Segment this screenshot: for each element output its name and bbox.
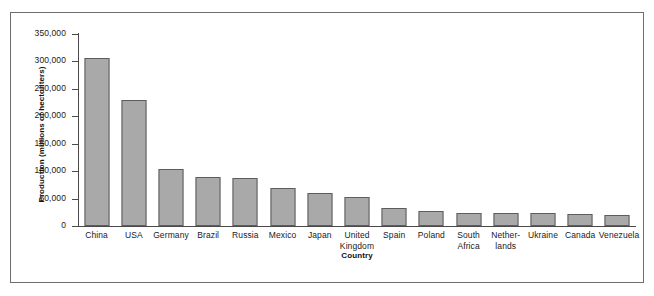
bar[interactable]	[307, 193, 332, 226]
x-axis-tick-label: SouthAfrica	[450, 230, 487, 251]
bar[interactable]	[84, 58, 109, 226]
bar[interactable]	[270, 188, 295, 226]
bar-slot	[599, 34, 636, 226]
x-axis-tick-label: Japan	[301, 230, 338, 241]
bar[interactable]	[196, 177, 221, 226]
bar-slot	[524, 34, 561, 226]
x-axis-tick-label: USA	[115, 230, 152, 241]
bar[interactable]	[158, 169, 183, 226]
bar-slot	[227, 34, 264, 226]
bar[interactable]	[456, 213, 481, 226]
y-axis-tick-label: 50,000	[39, 194, 66, 203]
x-axis-tick-label: China	[78, 230, 115, 241]
x-axis-tick-label: Spain	[376, 230, 413, 241]
x-axis-tick-label: Nether-lands	[487, 230, 524, 251]
bar-slot	[264, 34, 301, 226]
bar-slot	[190, 34, 227, 226]
bar-slot	[78, 34, 115, 226]
y-axis-tick-label: 0	[61, 221, 66, 230]
bar-slot	[487, 34, 524, 226]
bar-slot	[413, 34, 450, 226]
bar[interactable]	[530, 213, 555, 226]
bar[interactable]	[493, 213, 518, 226]
x-axis-line	[78, 226, 636, 227]
x-axis-tick-label: UnitedKingdom	[338, 230, 375, 251]
bar-slot	[152, 34, 189, 226]
x-axis-tick-label: Brazil	[190, 230, 227, 241]
x-axis-tick-label: Venezuela	[599, 230, 636, 241]
x-axis-tick-label: Mexico	[264, 230, 301, 241]
bar[interactable]	[605, 215, 630, 226]
x-axis-title: Country	[78, 251, 636, 260]
x-axis-tick-label: Poland	[413, 230, 450, 241]
x-axis-tick-label: Germany	[152, 230, 189, 241]
bar-series	[78, 34, 636, 226]
chart-figure: Production (millions of hectoliters) 050…	[0, 0, 654, 296]
bar[interactable]	[382, 208, 407, 226]
bar-slot	[376, 34, 413, 226]
y-axis-tick-mark	[72, 226, 78, 227]
y-axis-tick-label: 200,000	[35, 111, 66, 120]
x-axis-tick-label: Ukraine	[524, 230, 561, 241]
bar[interactable]	[419, 211, 444, 226]
bar-slot	[338, 34, 375, 226]
y-axis-tick-label: 250,000	[35, 84, 66, 93]
bar[interactable]	[121, 100, 146, 226]
bar-slot	[301, 34, 338, 226]
bar-slot	[450, 34, 487, 226]
y-axis-tick-label: 300,000	[35, 56, 66, 65]
bar[interactable]	[233, 178, 258, 226]
bar[interactable]	[344, 197, 369, 226]
bar[interactable]	[568, 214, 593, 226]
y-axis-tick-label: 100,000	[35, 166, 66, 175]
y-axis-tick-label: 150,000	[35, 139, 66, 148]
y-axis-tick-label: 350,000	[35, 29, 66, 38]
bar-slot	[115, 34, 152, 226]
x-axis-tick-label: Russia	[227, 230, 264, 241]
bar-slot	[562, 34, 599, 226]
x-axis-tick-label: Canada	[562, 230, 599, 241]
